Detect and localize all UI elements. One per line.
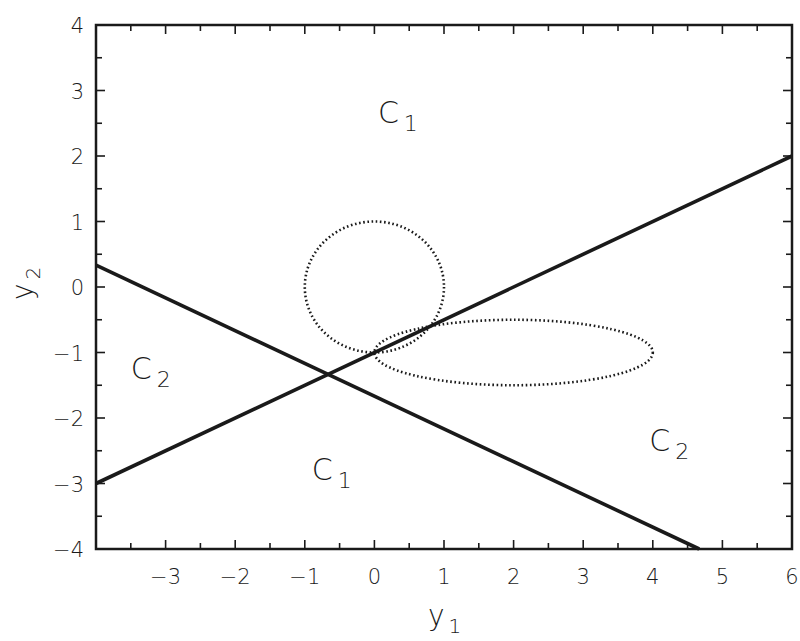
x-tick-label: 1	[437, 565, 450, 589]
decision-boundary-1	[96, 156, 792, 484]
x-tick-label: 2	[507, 565, 520, 589]
y-tick-label: −1	[53, 342, 84, 366]
y-tick-label: 1	[71, 211, 84, 235]
y-tick-label: 0	[71, 276, 84, 300]
y-tick-label: 2	[71, 145, 84, 169]
y-axis-label-sub: 2	[21, 267, 45, 280]
series-layer	[96, 156, 792, 549]
y-tick-label: 3	[71, 80, 84, 104]
x-tick-label: −1	[289, 565, 320, 589]
y-tick-label: −3	[53, 473, 84, 497]
annotations-layer: C1C1C2C2	[131, 95, 689, 493]
x-tick-label: 4	[646, 565, 659, 589]
region-label-c2: C2	[131, 351, 171, 392]
decision-boundary-2	[96, 265, 699, 549]
x-tick-label: 0	[368, 565, 381, 589]
y-tick-label: −2	[53, 407, 84, 431]
chart: −3−2−1012345643210−1−2−3−4 C1C1C2C2 y1 y…	[0, 0, 800, 641]
region-label-c2: C2	[649, 423, 689, 464]
y-tick-label: −4	[53, 538, 84, 562]
y-tick-label: 4	[71, 14, 84, 38]
x-tick-label: 6	[785, 565, 798, 589]
x-tick-label: 5	[716, 565, 729, 589]
x-axis-label-sub: 1	[449, 614, 462, 638]
x-axis-label-base: y	[428, 599, 445, 632]
class-1-circle	[305, 222, 444, 353]
x-axis-label: y1	[428, 599, 461, 638]
x-tick-label: 3	[577, 565, 590, 589]
class-2-ellipse	[374, 320, 652, 386]
y-axis-label: y2	[6, 267, 45, 300]
region-label-c1: C1	[312, 452, 352, 493]
y-axis-label-base: y	[6, 283, 39, 300]
tick-labels-layer: −3−2−1012345643210−1−2−3−4	[53, 14, 799, 589]
x-tick-label: −2	[220, 565, 251, 589]
region-label-c1: C1	[378, 95, 418, 136]
x-tick-label: −3	[150, 565, 181, 589]
